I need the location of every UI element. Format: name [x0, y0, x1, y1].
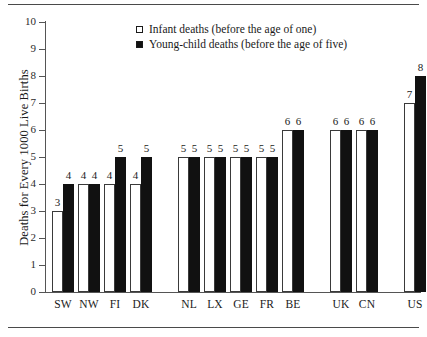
bar-infant-fr [256, 157, 267, 292]
y-axis-tick [39, 157, 46, 158]
x-axis-label-dk: DK [123, 298, 159, 310]
y-axis-tick [39, 76, 46, 77]
y-axis-tick [39, 103, 46, 104]
plot-area: 344445455555555566666678 [46, 22, 420, 292]
value-label-young-child-cn: 6 [363, 116, 382, 127]
bar-infant-us [404, 103, 415, 292]
x-axis-line [45, 292, 421, 293]
bar-young-child-nw [89, 184, 100, 292]
bar-young-child-nl [189, 157, 200, 292]
y-axis-tick [39, 130, 46, 131]
value-label-young-child-us: 8 [411, 62, 427, 73]
y-axis-tick [39, 22, 46, 23]
bar-infant-dk [130, 184, 141, 292]
bar-infant-lx [204, 157, 215, 292]
bar-infant-nw [78, 184, 89, 292]
bar-infant-ge [230, 157, 241, 292]
bar-young-child-be [293, 130, 304, 292]
bar-young-child-uk [341, 130, 352, 292]
bar-young-child-us [415, 76, 426, 292]
value-label-young-child-dk: 5 [137, 143, 156, 154]
bar-infant-be [282, 130, 293, 292]
y-axis-tick [39, 238, 46, 239]
bar-young-child-ge [241, 157, 252, 292]
bar-young-child-cn [367, 130, 378, 292]
bar-infant-fi [104, 184, 115, 292]
x-axis-label-be: BE [275, 298, 311, 310]
top-rule [8, 4, 419, 5]
x-axis-label-us: US [397, 298, 427, 310]
bottom-rule [8, 327, 419, 328]
y-axis-title: Deaths for Every 1000 Live Births [17, 38, 32, 278]
y-axis-tick [39, 49, 46, 50]
bar-infant-nl [178, 157, 189, 292]
y-axis-tick-label: 10 [14, 16, 36, 27]
y-axis-tick-label: 0 [14, 286, 36, 297]
x-axis-label-cn: CN [349, 298, 385, 310]
y-axis-tick [39, 265, 46, 266]
bar-infant-sw [52, 211, 63, 292]
bar-infant-cn [356, 130, 367, 292]
value-label-young-child-be: 6 [289, 116, 308, 127]
value-label-young-child-fr: 5 [263, 143, 282, 154]
figure: 012345678910 Deaths for Every 1000 Live … [0, 0, 427, 337]
bar-young-child-sw [63, 184, 74, 292]
bar-young-child-fi [115, 157, 126, 292]
y-axis-tick [39, 292, 46, 293]
bar-young-child-fr [267, 157, 278, 292]
bar-young-child-lx [215, 157, 226, 292]
y-axis-tick [39, 184, 46, 185]
value-label-young-child-fi: 5 [111, 143, 130, 154]
bar-young-child-dk [141, 157, 152, 292]
bar-infant-uk [330, 130, 341, 292]
y-axis-tick [39, 211, 46, 212]
